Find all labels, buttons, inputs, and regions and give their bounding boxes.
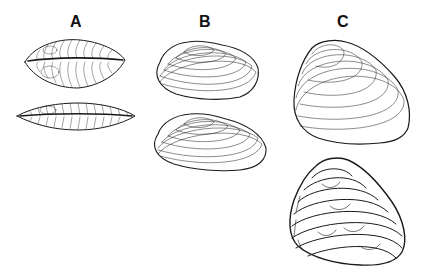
shell-b-upper-view: [157, 41, 259, 99]
shell-illustrations: [0, 0, 423, 279]
shell-c-lower-view: [290, 158, 405, 265]
shell-b-lower-view: [155, 114, 267, 171]
shell-a-ventral-view: [17, 103, 135, 130]
shell-a-dorsal-view: [25, 40, 125, 88]
shell-c-upper-view: [294, 40, 410, 143]
